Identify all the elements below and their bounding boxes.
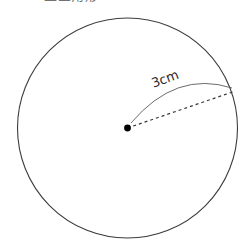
leader-arc-line — [131, 83, 232, 123]
center-dot — [124, 125, 131, 132]
geometry-figure: 正三角形 3cm — [0, 0, 251, 251]
circle-diagram-canvas — [0, 0, 251, 251]
